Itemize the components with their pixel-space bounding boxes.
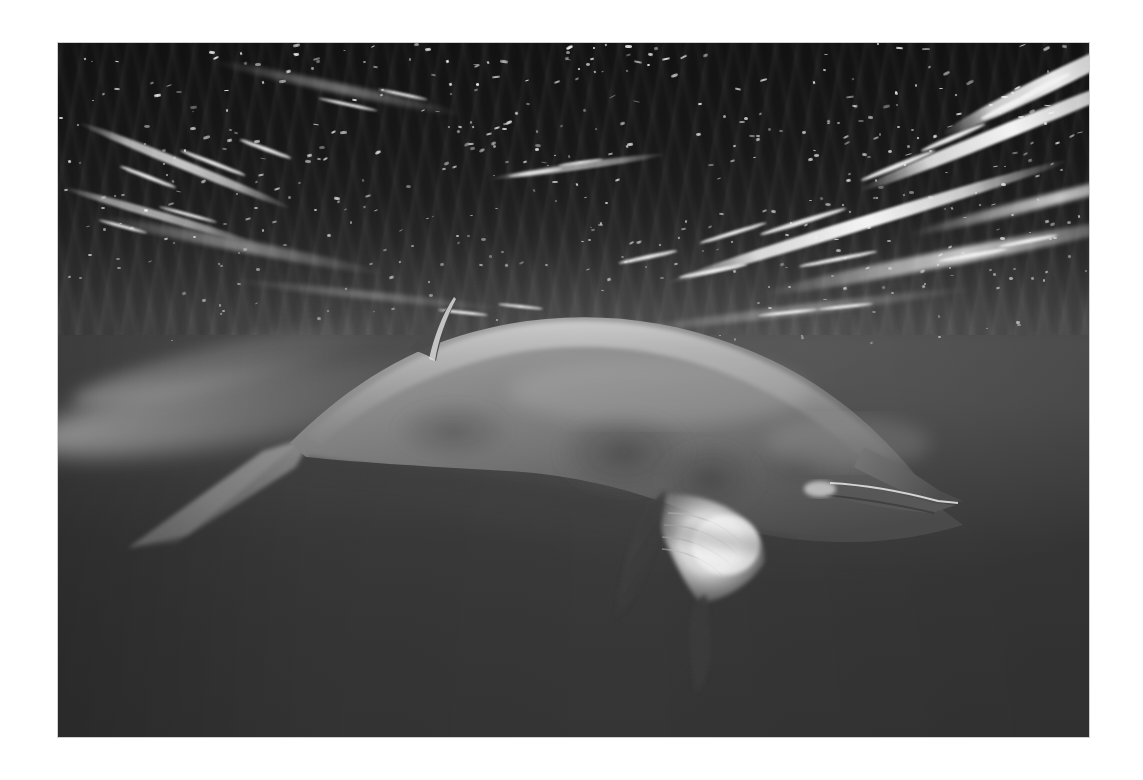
photo-page: Minke whale swimming beneath the ocean s…: [0, 0, 1143, 780]
minke-whale: [58, 43, 1089, 737]
lower-flipper: [689, 595, 711, 693]
photograph: [58, 43, 1089, 737]
tail-fluke: [128, 435, 313, 548]
